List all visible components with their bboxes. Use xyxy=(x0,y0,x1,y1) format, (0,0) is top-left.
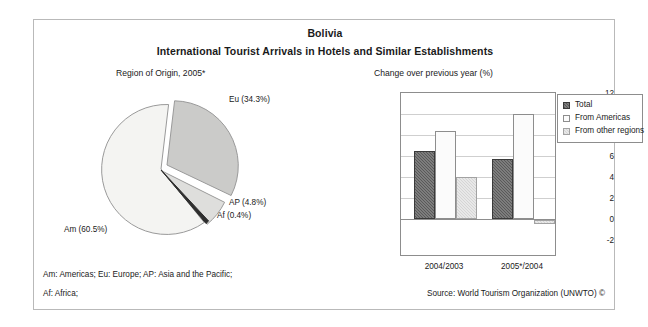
bar-total-2004 xyxy=(414,151,435,219)
y-tick-6: 6 xyxy=(562,152,614,161)
pie-chart: Eu (34.3%) AP (4.8%) Af (0.4%) Am (60.5%… xyxy=(44,82,344,257)
pie-chart-title: Region of Origin, 2005* xyxy=(116,68,205,78)
legend-swatch-americas xyxy=(563,115,570,122)
bar-total-2005 xyxy=(492,159,513,219)
legend-swatch-total xyxy=(563,102,570,109)
bar-americas-2005 xyxy=(513,114,534,219)
pie-label-af: Af (0.4%) xyxy=(217,211,251,220)
pie-label-eu: Eu (34.3%) xyxy=(229,95,270,104)
figure-frame: Bolivia International Tourist Arrivals i… xyxy=(33,19,615,310)
y-tick-2: 2 xyxy=(562,194,614,203)
bar-chart: 12 10 8 6 4 2 0 -2 xyxy=(339,82,614,282)
legend-label-total: Total xyxy=(575,101,592,109)
bar-chart-legend: Total From Americas From other regions xyxy=(557,94,643,143)
zero-line xyxy=(401,219,555,220)
y-tick-4: 4 xyxy=(562,173,614,182)
pie-label-am: Am (60.5%) xyxy=(64,225,107,234)
source-credit: Source: World Tourism Organization (UNWT… xyxy=(427,289,605,298)
x-tick-2004-2003: 2004/2003 xyxy=(425,262,464,271)
figure-page: Bolivia International Tourist Arrivals i… xyxy=(0,0,648,327)
pie-label-ap: AP (4.8%) xyxy=(229,198,266,207)
bar-other-2004 xyxy=(456,177,477,219)
legend-item-other: From other regions xyxy=(563,125,636,138)
bar-chart-title: Change over previous year (%) xyxy=(374,68,493,78)
y-tick-neg2: -2 xyxy=(562,236,614,245)
legend-item-total: Total xyxy=(563,99,636,112)
bar-other-2005 xyxy=(534,220,555,224)
legend-label-americas: From Americas xyxy=(575,114,630,122)
legend-item-americas: From Americas xyxy=(563,112,636,125)
legend-label-other: From other regions xyxy=(575,127,644,135)
legend-swatch-other xyxy=(563,128,570,135)
x-tick-2005-2004: 2005*/2004 xyxy=(501,262,543,271)
figure-title-subtitle: International Tourist Arrivals in Hotels… xyxy=(34,45,616,57)
bar-plot-area xyxy=(400,92,556,256)
bar-americas-2004 xyxy=(435,131,456,219)
footnote-abbreviations-line2: Af: Africa; xyxy=(43,289,78,298)
figure-title-country: Bolivia xyxy=(34,27,616,39)
footnote-abbreviations-line1: Am: Americas; Eu: Europe; AP: Asia and t… xyxy=(43,270,232,279)
y-tick-0: 0 xyxy=(562,215,614,224)
